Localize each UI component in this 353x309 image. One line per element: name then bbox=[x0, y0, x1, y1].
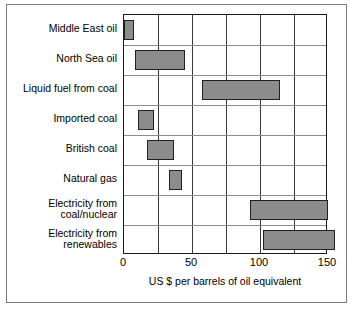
x-tick-label: 100 bbox=[250, 256, 268, 268]
x-tick-label: 150 bbox=[318, 256, 336, 268]
bar-range bbox=[202, 80, 281, 100]
bar-range bbox=[263, 230, 335, 250]
y-axis-category-labels: Middle East oilNorth Sea oilLiquid fuel … bbox=[0, 14, 117, 254]
bar-range bbox=[147, 140, 174, 160]
category-label: Liquid fuel from coal bbox=[0, 83, 117, 95]
y-gridline bbox=[124, 45, 326, 46]
x-gridline bbox=[226, 15, 227, 253]
category-label: Imported coal bbox=[0, 113, 117, 125]
y-gridline bbox=[124, 165, 326, 166]
category-label: British coal bbox=[0, 143, 117, 155]
bar-range bbox=[250, 200, 328, 220]
y-gridline bbox=[124, 225, 326, 226]
y-gridline bbox=[124, 135, 326, 136]
plot-area bbox=[123, 14, 327, 254]
x-tick-label: 50 bbox=[185, 256, 197, 268]
bar-range bbox=[169, 170, 183, 190]
category-label: Natural gas bbox=[0, 173, 117, 185]
y-gridline bbox=[124, 105, 326, 106]
x-axis-title: US $ per barrels of oil equivalent bbox=[123, 275, 327, 287]
bar-range bbox=[135, 50, 185, 70]
x-gridline bbox=[192, 15, 193, 253]
x-tick-label: 0 bbox=[120, 256, 126, 268]
y-gridline bbox=[124, 195, 326, 196]
category-label: North Sea oil bbox=[0, 53, 117, 65]
bar-range bbox=[124, 20, 134, 40]
category-label: Electricity from coal/nuclear bbox=[0, 198, 117, 221]
y-gridline bbox=[124, 75, 326, 76]
chart-figure: Middle East oilNorth Sea oilLiquid fuel … bbox=[0, 0, 353, 309]
category-label: Electricity from renewables bbox=[0, 228, 117, 251]
bar-range bbox=[138, 110, 154, 130]
category-label: Middle East oil bbox=[0, 23, 117, 35]
